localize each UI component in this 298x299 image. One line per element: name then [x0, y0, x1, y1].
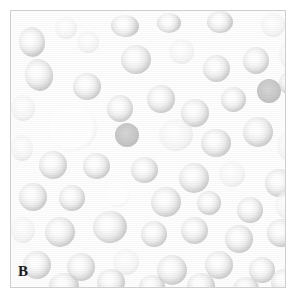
micrograph-field [11, 11, 285, 287]
red-blood-cell [73, 73, 101, 100]
red-blood-cell [147, 85, 175, 113]
red-blood-cell [279, 41, 285, 69]
red-blood-cell [77, 31, 99, 53]
red-blood-cell [207, 11, 233, 33]
figure-panel-b: B [0, 0, 298, 299]
red-blood-cell [257, 79, 281, 103]
red-blood-cell [131, 157, 158, 183]
red-blood-cell [179, 163, 209, 193]
red-blood-cell [237, 197, 263, 223]
red-blood-cell [157, 13, 181, 33]
red-blood-cell [203, 55, 230, 82]
red-blood-cell [151, 187, 181, 217]
micrograph-frame [10, 10, 286, 288]
red-blood-cell [243, 117, 273, 147]
red-blood-cell [47, 105, 99, 154]
red-blood-cell [201, 129, 231, 157]
red-blood-cell [107, 95, 133, 122]
panel-label-b: B [18, 264, 28, 279]
red-blood-cell [11, 135, 33, 161]
red-blood-cell [181, 217, 208, 244]
red-blood-cell [169, 39, 194, 64]
red-blood-cell [45, 217, 75, 247]
red-blood-cell [55, 17, 77, 39]
red-blood-cell [219, 161, 245, 187]
red-blood-cell [19, 183, 47, 211]
red-blood-cell [83, 153, 110, 179]
red-blood-cell [221, 87, 246, 112]
red-blood-cell [197, 191, 221, 215]
red-blood-cell [11, 95, 35, 121]
red-blood-cell [115, 123, 139, 147]
red-blood-cell [110, 14, 139, 38]
red-blood-cell [22, 56, 56, 93]
red-blood-cell [225, 225, 253, 253]
red-blood-cell [121, 45, 151, 74]
red-blood-cell [141, 221, 167, 247]
red-blood-cell [11, 217, 35, 243]
red-blood-cell [17, 25, 47, 58]
red-blood-cell [243, 47, 269, 74]
red-blood-cell [39, 151, 67, 179]
red-blood-cell [277, 131, 285, 161]
red-blood-cell [91, 209, 128, 244]
red-blood-cell [261, 13, 285, 37]
red-blood-cell [107, 183, 129, 207]
red-blood-cell [59, 185, 85, 211]
red-blood-cell [267, 219, 285, 247]
